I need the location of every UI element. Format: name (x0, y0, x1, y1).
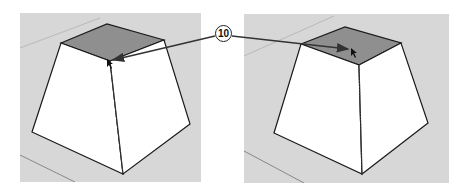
right-face (110, 40, 190, 174)
right-viewport-panel (244, 14, 449, 183)
left-viewport-panel (20, 13, 201, 182)
left-frustum-drawing (20, 13, 201, 182)
right-face (359, 43, 428, 174)
left-face (274, 44, 362, 174)
right-frustum-drawing (244, 14, 449, 183)
callout-number: 10 (215, 25, 232, 42)
